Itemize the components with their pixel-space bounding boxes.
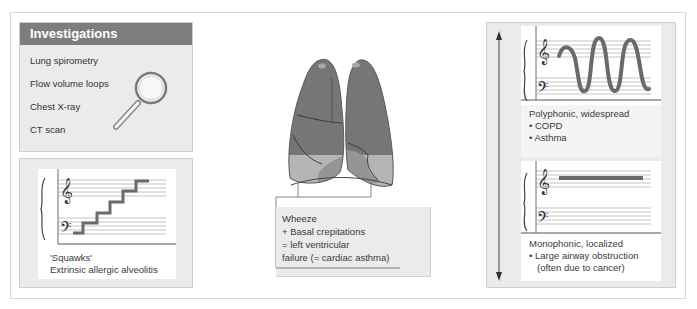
monophonic-bullet: (often due to cancer) xyxy=(537,262,625,274)
monophonic-bullet: • Large airway obstruction xyxy=(529,250,638,262)
treble-clef-icon: 𝄞 xyxy=(537,169,550,195)
monophonic-heading: Monophonic, localized xyxy=(529,238,623,250)
wheeze-types-panel: 𝄞 𝄢 Polyphonic, widespread • COPD • Asth… xyxy=(486,22,676,288)
bass-clef-icon: 𝄢 xyxy=(537,208,549,229)
